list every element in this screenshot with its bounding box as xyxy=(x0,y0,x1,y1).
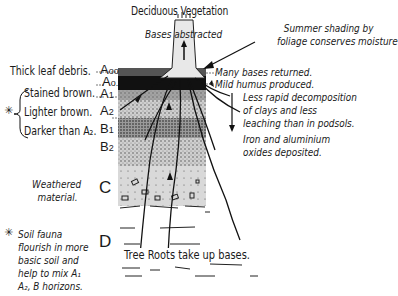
desc-stained-brown: Stained brown. xyxy=(24,86,95,100)
weathered-material-note: Weathered material. xyxy=(32,178,81,204)
horizon-label-a1: A1 xyxy=(100,86,114,101)
desc-darker-than-a2: Darker than A₂. xyxy=(24,124,96,138)
summer-shading-note: Summer shading by foliage conserves mois… xyxy=(277,22,398,48)
tree-roots-caption: Tree Roots take up bases. xyxy=(124,248,250,262)
iron-oxides-note: Iron and aluminium oxides deposited. xyxy=(243,133,330,159)
vegetation-title: Deciduous Vegetation xyxy=(131,4,228,18)
mild-humus-note: Mild humus produced. xyxy=(215,78,314,91)
star-marker-fauna-icon: ✳ xyxy=(4,226,13,239)
decomposition-note: Less rapid decomposition of clays and le… xyxy=(243,91,357,130)
desc-thick-leaf-debris: Thick leaf debris. xyxy=(10,64,91,78)
soil-fauna-note: Soil fauna flourish in more basic soil a… xyxy=(18,228,88,293)
horizon-b2-layer xyxy=(118,138,206,166)
horizon-label-c: C xyxy=(99,178,111,198)
bases-abstracted-label: Bases abstracted xyxy=(145,28,222,41)
horizon-label-b1: B1 xyxy=(100,121,114,136)
horizon-label-a2: A2 xyxy=(100,103,114,118)
horizon-label-d: D xyxy=(99,232,111,252)
desc-lighter-brown: Lighter brown. xyxy=(24,105,92,119)
horizon-b1-layer xyxy=(118,118,206,138)
star-marker-icon: ✳ xyxy=(4,104,13,117)
horizon-c-layer xyxy=(118,166,206,206)
horizon-label-b2: B2 xyxy=(100,139,114,154)
